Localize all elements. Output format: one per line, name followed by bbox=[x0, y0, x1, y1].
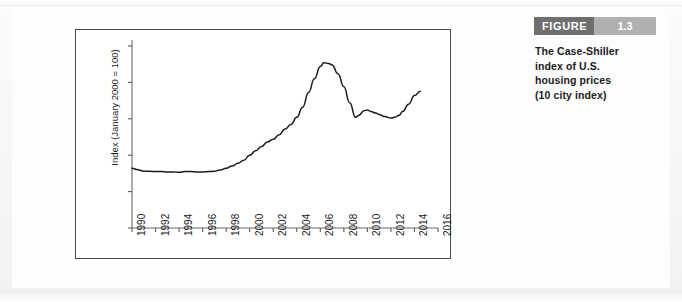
x-tick-label: 2004 bbox=[301, 214, 312, 236]
x-tick-label: 2000 bbox=[254, 214, 265, 236]
x-tick-label: 2006 bbox=[324, 214, 335, 236]
x-tick-label: 2016 bbox=[442, 214, 453, 236]
caption-line-3: housing prices bbox=[535, 73, 660, 88]
figure-label: FIGURE bbox=[534, 17, 594, 35]
x-tick-label: 2010 bbox=[371, 214, 382, 236]
x-tick-label: 1992 bbox=[160, 214, 171, 236]
caption-line-1: The Case-Shiller bbox=[535, 44, 660, 59]
x-tick-label: 1990 bbox=[136, 214, 147, 236]
page-edge-bottom bbox=[0, 292, 682, 302]
page-edge-top bbox=[0, 0, 682, 7]
x-tick-label: 1998 bbox=[230, 214, 241, 236]
caption-line-2: index of U.S. bbox=[535, 59, 660, 74]
figure-caption: The Case-Shiller index of U.S. housing p… bbox=[535, 44, 660, 102]
x-tick-label: 1994 bbox=[183, 214, 194, 236]
figure-number: 1.3 bbox=[594, 17, 656, 35]
x-axis-ticks: 1990199219941996199820002002200420062008… bbox=[76, 30, 452, 90]
figure-page: FIGURE 1.3 The Case-Shiller index of U.S… bbox=[0, 0, 682, 302]
x-tick-label: 2008 bbox=[348, 214, 359, 236]
chart-plot-frame: 050100150200250 199019921994199619982000… bbox=[75, 29, 451, 259]
x-tick-label: 2014 bbox=[418, 214, 429, 236]
x-tick-label: 1996 bbox=[207, 214, 218, 236]
figure-header: FIGURE 1.3 bbox=[534, 17, 656, 35]
caption-line-4: (10 city index) bbox=[535, 88, 660, 103]
x-tick-label: 2012 bbox=[395, 214, 406, 236]
x-tick-label: 2002 bbox=[277, 214, 288, 236]
y-axis-label: Index (January 2000 = 100) bbox=[109, 23, 120, 193]
